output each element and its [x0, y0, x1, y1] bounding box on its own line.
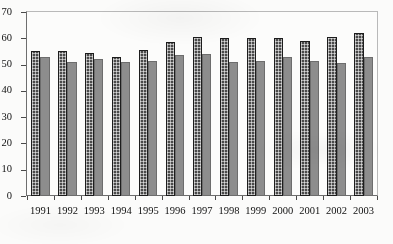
bar-series-1-1994	[112, 57, 121, 196]
x-axis-tick-mark	[27, 196, 28, 200]
bar-group	[162, 12, 189, 196]
bar-series-1-2003	[354, 33, 363, 196]
bar-series-1-1999	[247, 38, 256, 196]
bar-group	[323, 12, 350, 196]
bar-series-2-1998	[229, 62, 238, 196]
x-axis-tick-mark	[135, 196, 136, 200]
x-axis-tick-label: 1998	[215, 205, 242, 216]
x-axis-tick-mark	[162, 196, 163, 200]
y-axis-tick-label: 40	[0, 85, 12, 95]
x-axis-tick-mark	[81, 196, 82, 200]
y-axis-tick-label: 30	[0, 112, 12, 122]
bar-series-1-1992	[58, 51, 67, 196]
x-axis-tick-label: 1995	[135, 205, 162, 216]
bar-group	[269, 12, 296, 196]
x-axis-tick-label: 2000	[269, 205, 296, 216]
x-axis-tick-label: 1993	[81, 205, 108, 216]
y-axis-tick-label: 20	[0, 138, 12, 148]
bar-series-2-1994	[121, 62, 130, 196]
bar-series-1-1991	[31, 51, 40, 196]
y-axis-tick-label: 70	[0, 7, 12, 17]
bars-container	[27, 12, 377, 196]
x-axis-tick-label: 2001	[296, 205, 323, 216]
bar-group	[242, 12, 269, 196]
bar-series-2-1993	[94, 59, 103, 196]
x-axis-tick-label: 1999	[242, 205, 269, 216]
bar-chart: 706050403020100 199119921993199419951996…	[0, 0, 393, 244]
bar-series-1-2002	[327, 37, 336, 196]
bar-group	[54, 12, 81, 196]
y-axis-tick-label: 0	[0, 191, 12, 201]
y-axis-tick-label: 60	[0, 33, 12, 43]
bar-group	[27, 12, 54, 196]
bar-series-2-2002	[337, 63, 346, 196]
y-axis-tick-label: 10	[0, 164, 12, 174]
x-axis-tick-mark	[54, 196, 55, 200]
bar-group	[81, 12, 108, 196]
x-axis-tick-label: 1996	[162, 205, 189, 216]
x-axis: 1991199219931994199519961997199819992000…	[27, 199, 377, 219]
bar-series-1-1998	[220, 38, 229, 196]
bar-group	[296, 12, 323, 196]
bar-series-1-1997	[193, 37, 202, 196]
x-axis-tick-mark	[377, 196, 378, 200]
x-axis-tick-label: 1994	[108, 205, 135, 216]
bar-series-2-1997	[202, 54, 211, 196]
x-axis-tick-mark	[189, 196, 190, 200]
x-axis-tick-label: 2002	[323, 205, 350, 216]
x-axis-tick-label: 1991	[27, 205, 54, 216]
x-axis-tick-mark	[242, 196, 243, 200]
bar-group	[215, 12, 242, 196]
bar-group	[135, 12, 162, 196]
bar-series-2-1996	[175, 55, 184, 196]
x-axis-tick-label: 1992	[54, 205, 81, 216]
x-axis-tick-label: 2003	[350, 205, 377, 216]
x-axis-tick-mark	[323, 196, 324, 200]
x-axis-tick-label: 1997	[189, 205, 216, 216]
y-axis-tick-mark	[21, 196, 26, 197]
bar-series-1-2001	[300, 41, 309, 196]
bar-series-2-2000	[283, 57, 292, 196]
bar-series-1-1993	[85, 53, 94, 196]
bar-series-2-1999	[256, 61, 265, 196]
bar-series-2-1991	[40, 57, 49, 196]
bar-series-1-2000	[274, 38, 283, 196]
bar-group	[189, 12, 216, 196]
bar-group	[108, 12, 135, 196]
bar-series-2-2001	[310, 61, 319, 196]
bar-series-2-1995	[148, 61, 157, 196]
bar-series-1-1996	[166, 42, 175, 196]
bar-group	[350, 12, 377, 196]
bar-series-1-1995	[139, 50, 148, 196]
y-axis-tick-label: 50	[0, 59, 12, 69]
x-axis-tick-mark	[296, 196, 297, 200]
bar-series-2-2003	[364, 57, 373, 196]
x-axis-tick-mark	[350, 196, 351, 200]
x-axis-tick-mark	[269, 196, 270, 200]
x-axis-tick-mark	[215, 196, 216, 200]
bar-series-2-1992	[67, 62, 76, 196]
x-axis-tick-mark	[108, 196, 109, 200]
